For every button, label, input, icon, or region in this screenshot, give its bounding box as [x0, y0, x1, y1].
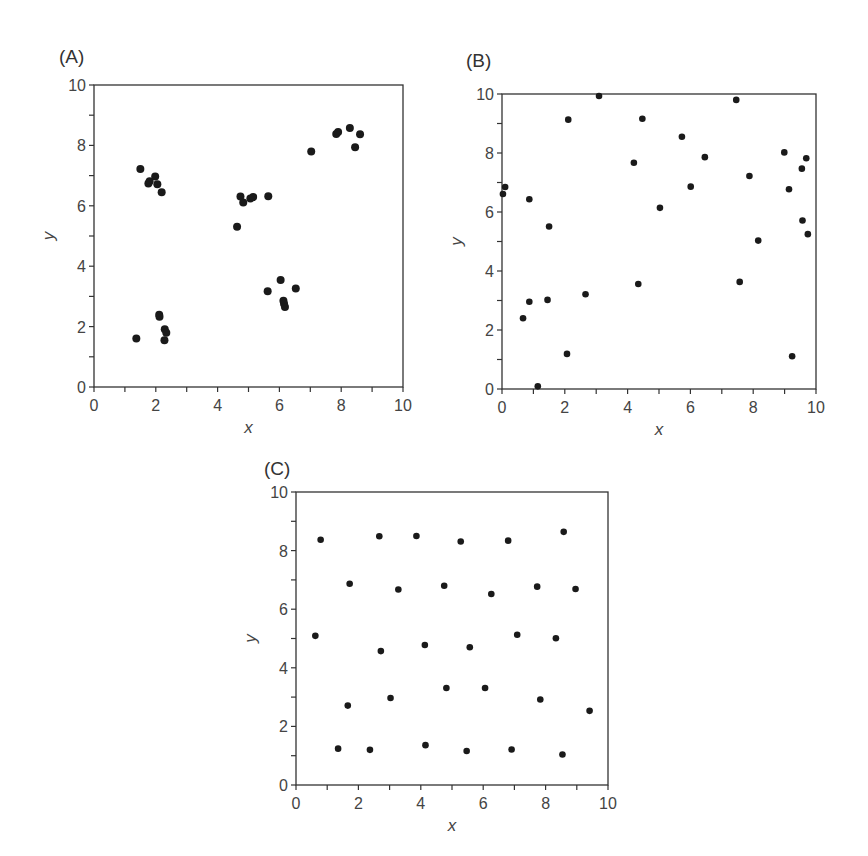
data-point — [553, 635, 560, 642]
data-point — [443, 685, 450, 692]
plot-frame — [296, 492, 608, 785]
data-point — [508, 746, 515, 753]
data-point — [559, 751, 566, 758]
data-point — [378, 648, 385, 655]
scatter-plot-c: 02468100246810xy — [0, 0, 868, 856]
data-point — [387, 695, 394, 702]
x-tick-label: 2 — [354, 795, 363, 812]
data-point — [395, 586, 402, 593]
scatter-panel-c: (C) 02468100246810xy — [0, 0, 868, 856]
data-point — [560, 529, 567, 536]
y-axis-title: y — [241, 633, 260, 644]
x-tick-label: 4 — [416, 795, 425, 812]
y-tick-label: 6 — [279, 601, 288, 618]
y-tick-label: 4 — [279, 660, 288, 677]
data-point — [466, 644, 473, 651]
data-point — [344, 702, 351, 709]
data-point — [335, 745, 342, 752]
data-point — [514, 631, 521, 638]
data-point — [317, 536, 324, 543]
data-point — [534, 583, 541, 590]
data-point — [441, 582, 448, 589]
x-tick-label: 0 — [292, 795, 301, 812]
data-point — [463, 748, 470, 755]
data-point — [488, 591, 495, 598]
data-point — [312, 633, 319, 640]
data-point — [505, 537, 512, 544]
data-point — [376, 533, 383, 540]
data-point — [422, 642, 429, 649]
y-tick-label: 0 — [279, 777, 288, 794]
y-tick-label: 2 — [279, 718, 288, 735]
x-tick-label: 10 — [599, 795, 617, 812]
data-point — [537, 696, 544, 703]
data-point — [482, 685, 489, 692]
data-point — [457, 538, 464, 545]
x-tick-label: 8 — [541, 795, 550, 812]
data-point — [413, 533, 420, 540]
y-tick-label: 10 — [270, 484, 288, 501]
data-point — [586, 708, 593, 715]
data-point — [422, 742, 429, 749]
data-point — [346, 580, 353, 587]
x-axis-title: x — [447, 816, 457, 835]
data-point — [367, 747, 374, 754]
y-tick-label: 8 — [279, 543, 288, 560]
x-tick-label: 6 — [479, 795, 488, 812]
data-point — [572, 586, 579, 593]
